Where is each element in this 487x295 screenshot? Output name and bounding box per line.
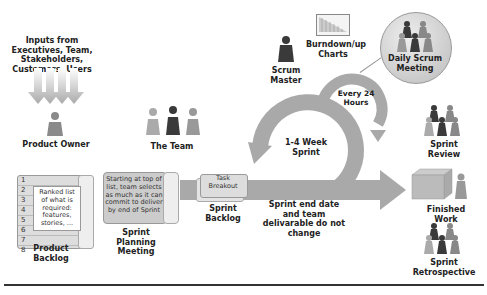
task-breakout-label: Task Breakout (203, 175, 243, 191)
team-label: The Team (140, 142, 204, 152)
product-backlog-note: Ranked list of what is required: feature… (33, 186, 81, 231)
product-backlog-label: Product Backlog (26, 244, 76, 263)
scrum-master-icon (276, 36, 296, 62)
product-owner-label: Product Owner (14, 140, 98, 150)
bottom-divider (4, 284, 484, 286)
constraint-label: Sprint end date and team delivarable do … (262, 200, 346, 238)
burndown-label: Burndown/up Charts (306, 40, 360, 59)
sprint-review-label: Sprint Review (414, 140, 474, 159)
retrospective-label: Sprint Retrospective (410, 258, 478, 277)
sprint-planning-label: Sprint Planning Meeting (112, 228, 160, 257)
sprint-review-people-icon (424, 104, 462, 136)
team-icon (142, 105, 202, 139)
daily-cycle-label: Every 24 Hours (336, 89, 376, 107)
product-owner-icon (44, 112, 66, 136)
sprint-planning-tab (163, 172, 179, 224)
sprint-backlog-label: Sprint Backlog (200, 204, 246, 223)
sprint-planning-note: Starting at top of list, team selects as… (104, 176, 164, 215)
daily-scrum-people-icon (397, 20, 435, 52)
burndown-chart-icon (316, 14, 350, 36)
finished-work-box-icon (410, 167, 470, 201)
inputs-arrows-icon (28, 68, 84, 108)
sprint-cycle-label: 1-4 Week Sprint (282, 138, 330, 157)
retrospective-people-icon (424, 222, 462, 254)
